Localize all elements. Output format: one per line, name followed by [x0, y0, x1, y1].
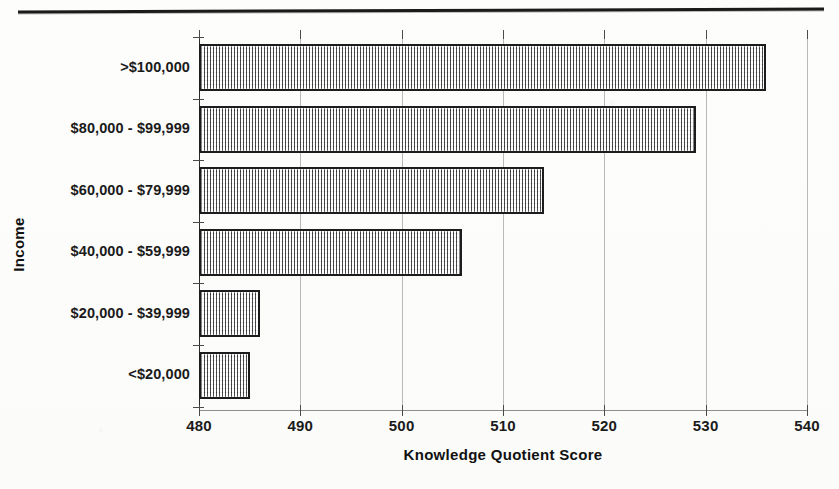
x-tick-490: [300, 405, 301, 416]
bar: [199, 229, 462, 276]
gridline-530: [706, 36, 707, 411]
x-tick-label-530: 530: [676, 417, 736, 434]
x-tick-label-500: 500: [372, 417, 432, 434]
plot-area: [199, 36, 807, 411]
x-tick-label-480: 480: [169, 417, 229, 434]
x-tick-540: [807, 405, 808, 416]
x-tick-top-540: [807, 30, 808, 39]
y-axis-title-text: Income: [10, 217, 27, 271]
gridline-490: [300, 36, 301, 411]
x-axis-title: Knowledge Quotient Score: [199, 446, 807, 463]
bar-chart: 480490500510520530540 >$100,000$80,000 -…: [0, 0, 839, 489]
x-tick-top-520: [604, 30, 605, 39]
y-tick: [193, 345, 204, 346]
x-tick-top-510: [503, 30, 504, 39]
y-tick: [193, 37, 204, 38]
x-tick-label-490: 490: [270, 417, 330, 434]
y-tick: [193, 99, 204, 100]
bar: [199, 352, 250, 399]
y-tick: [193, 407, 204, 408]
x-tick-top-530: [706, 30, 707, 39]
x-tick-520: [604, 405, 605, 416]
gridline-520: [604, 36, 605, 411]
gridline-500: [402, 36, 403, 411]
bar: [199, 167, 544, 214]
y-axis-title: Income: [6, 0, 30, 489]
bar: [199, 44, 766, 91]
x-tick-label-510: 510: [473, 417, 533, 434]
x-tick-top-490: [300, 30, 301, 39]
y-tick: [193, 222, 204, 223]
y-tick: [193, 160, 204, 161]
gridline-510: [503, 36, 504, 411]
x-tick-510: [503, 405, 504, 416]
x-tick-top-500: [402, 30, 403, 39]
x-tick-500: [402, 405, 403, 416]
bar: [199, 106, 696, 153]
x-tick-label-520: 520: [574, 417, 634, 434]
x-tick-530: [706, 405, 707, 416]
y-tick: [193, 283, 204, 284]
gridline-540: [807, 36, 808, 411]
bar: [199, 290, 260, 337]
x-tick-label-540: 540: [777, 417, 837, 434]
